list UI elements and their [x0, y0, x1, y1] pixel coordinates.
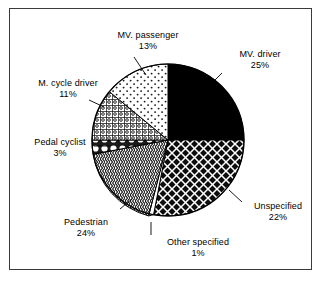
label-mv-passenger-name: MV. passenger: [117, 30, 178, 40]
label-mv-driver-value: 25%: [215, 60, 305, 71]
label-unspecified-name: Unspecified: [254, 201, 302, 211]
label-unspecified: Unspecified 22%: [238, 201, 318, 223]
label-pedestrian-name: Pedestrian: [64, 217, 108, 227]
label-other-specified: Other specified 1%: [146, 237, 250, 259]
label-pedal-cyclist-value: 3%: [16, 148, 104, 159]
label-pedestrian-value: 24%: [46, 228, 126, 239]
label-mv-passenger-value: 13%: [96, 41, 200, 52]
pie-slice-mv-driver[interactable]: [168, 64, 244, 140]
label-mv-driver-name: MV. driver: [239, 49, 280, 59]
label-pedal-cyclist-name: Pedal cyclist: [34, 137, 85, 147]
label-unspecified-value: 22%: [238, 212, 318, 223]
pie-slice-unspecified[interactable]: [154, 140, 244, 216]
label-mcycle-driver: M. cycle driver 11%: [18, 78, 118, 100]
label-pedal-cyclist: Pedal cyclist 3%: [16, 137, 104, 159]
label-other-specified-name: Other specified: [167, 237, 229, 247]
figure-frame: MV. passenger 13% MV. driver 25% M. cycl…: [9, 8, 312, 270]
label-other-specified-value: 1%: [146, 248, 250, 259]
label-pedestrian: Pedestrian 24%: [46, 217, 126, 239]
label-mv-driver: MV. driver 25%: [215, 49, 305, 71]
label-mcycle-driver-name: M. cycle driver: [38, 78, 98, 88]
label-mcycle-driver-value: 11%: [18, 89, 118, 100]
chart-page: MV. passenger 13% MV. driver 25% M. cycl…: [0, 0, 323, 285]
label-mv-passenger: MV. passenger 13%: [96, 30, 200, 52]
